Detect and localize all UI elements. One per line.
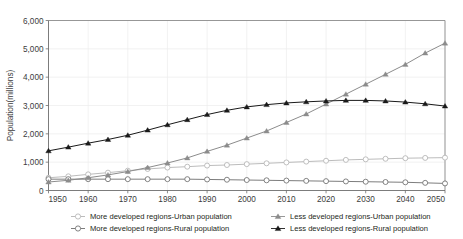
- data-point-filled-triangle: [403, 62, 409, 67]
- x-axis-ticks: 1950196019701980199020002010202020302040…: [49, 191, 446, 204]
- data-point-open-circle: [264, 161, 269, 166]
- data-point-open-circle: [363, 179, 368, 184]
- data-point-filled-triangle: [284, 120, 290, 125]
- data-point-open-circle: [75, 214, 80, 219]
- data-point-filled-triangle: [383, 72, 389, 77]
- data-point-open-circle: [244, 162, 249, 167]
- data-point-open-circle: [443, 155, 448, 160]
- data-point-filled-triangle: [442, 41, 448, 46]
- x-tick-label: 2050: [427, 195, 446, 204]
- data-point-open-circle: [244, 178, 249, 183]
- x-tick-label: 2020: [317, 195, 336, 204]
- data-point-filled-triangle: [422, 51, 428, 56]
- legend-label: More developed regions-Rural population: [90, 224, 229, 233]
- data-point-open-circle: [224, 177, 229, 182]
- x-tick-label: 1980: [158, 195, 177, 204]
- data-point-open-circle: [205, 177, 210, 182]
- x-tick-label: 2040: [396, 195, 415, 204]
- legend-item[interactable]: Less developed regions-Urban population: [271, 212, 431, 221]
- data-point-open-circle: [403, 156, 408, 161]
- data-point-open-circle: [284, 178, 289, 183]
- data-point-open-circle: [185, 177, 190, 182]
- data-point-filled-triangle: [343, 92, 349, 97]
- y-tick-label: 1,000: [23, 158, 44, 167]
- data-point-open-circle: [324, 158, 329, 163]
- chart-legend: More developed regions-Urban populationL…: [71, 212, 431, 233]
- x-tick-label: 1970: [119, 195, 138, 204]
- x-tick-label: 1950: [49, 195, 68, 204]
- legend-item[interactable]: More developed regions-Rural population: [71, 224, 229, 233]
- data-point-open-circle: [284, 160, 289, 165]
- data-point-open-circle: [75, 226, 80, 231]
- x-tick-label: 2010: [277, 195, 296, 204]
- chart-canvas: 01,0002,0003,0004,0005,0006,000195019601…: [0, 0, 463, 239]
- data-point-open-circle: [423, 180, 428, 185]
- x-tick-label: 1990: [198, 195, 217, 204]
- data-point-filled-triangle: [264, 128, 270, 133]
- data-point-open-circle: [443, 181, 448, 186]
- legend-item[interactable]: More developed regions-Urban population: [71, 212, 232, 221]
- x-tick-label: 2030: [357, 195, 376, 204]
- y-tick-label: 3,000: [23, 102, 44, 111]
- y-tick-label: 6,000: [23, 17, 44, 26]
- data-point-open-circle: [423, 155, 428, 160]
- data-point-open-circle: [304, 159, 309, 164]
- data-point-open-circle: [383, 180, 388, 185]
- population-line-chart: 01,0002,0003,0004,0005,0006,000195019601…: [0, 0, 463, 239]
- data-point-open-circle: [304, 178, 309, 183]
- data-point-open-circle: [324, 179, 329, 184]
- data-point-open-circle: [403, 180, 408, 185]
- data-point-open-circle: [224, 163, 229, 168]
- y-tick-label: 2,000: [23, 130, 44, 139]
- data-point-open-circle: [383, 156, 388, 161]
- data-point-open-circle: [343, 179, 348, 184]
- data-point-open-circle: [125, 177, 130, 182]
- y-tick-label: 5,000: [23, 45, 44, 54]
- y-axis-ticks: 01,0002,0003,0004,0005,0006,000: [23, 17, 49, 196]
- legend-label: Less developed regions-Rural population: [290, 224, 428, 233]
- data-point-open-circle: [105, 177, 110, 182]
- data-point-filled-triangle: [363, 82, 369, 87]
- legend-label: More developed regions-Urban population: [90, 212, 232, 221]
- x-tick-label: 2000: [238, 195, 257, 204]
- data-point-open-circle: [185, 164, 190, 169]
- data-point-open-circle: [165, 165, 170, 170]
- data-point-open-circle: [343, 157, 348, 162]
- legend-label: Less developed regions-Urban population: [290, 212, 431, 221]
- legend-item[interactable]: Less developed regions-Rural population: [271, 224, 428, 233]
- data-point-open-circle: [363, 157, 368, 162]
- x-tick-label: 1960: [79, 195, 98, 204]
- data-point-open-circle: [145, 177, 150, 182]
- y-axis-title: Population(millions): [6, 70, 15, 142]
- y-tick-label: 0: [39, 187, 44, 196]
- data-point-open-circle: [205, 163, 210, 168]
- y-tick-label: 4,000: [23, 73, 44, 82]
- data-point-filled-triangle: [303, 111, 309, 116]
- data-point-open-circle: [165, 177, 170, 182]
- data-point-open-circle: [264, 178, 269, 183]
